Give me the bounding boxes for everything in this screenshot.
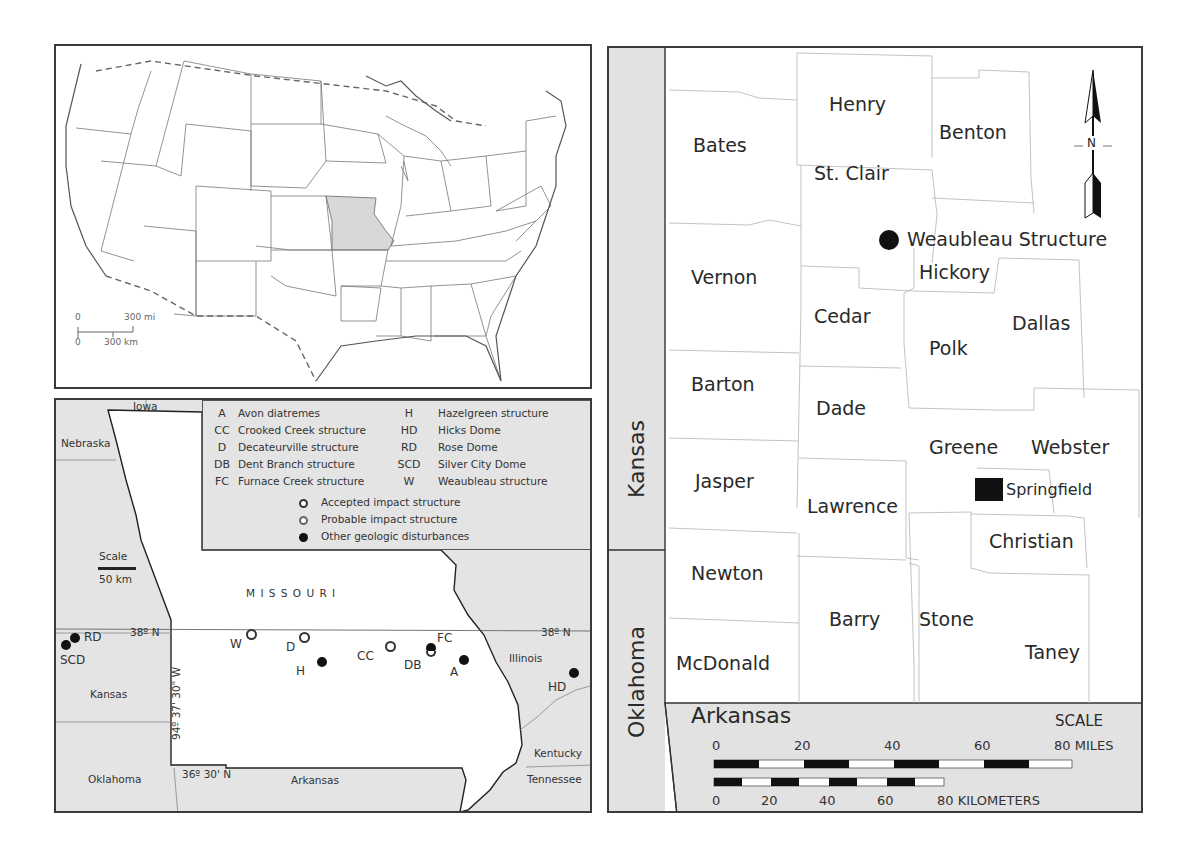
county-jasper: Jasper bbox=[695, 470, 754, 492]
site-marker-h[interactable] bbox=[317, 657, 327, 667]
county-dade: Dade bbox=[816, 397, 866, 419]
legend-symbol-label: Accepted impact structure bbox=[321, 496, 460, 508]
scale-tick-km: 20 bbox=[761, 793, 778, 808]
scale-tick-miles: 40 bbox=[884, 738, 901, 753]
county-christian: Christian bbox=[989, 530, 1074, 552]
legend-code: DB bbox=[207, 458, 237, 471]
scale-tick-km: 60 bbox=[877, 793, 894, 808]
site-label: RD bbox=[84, 630, 102, 644]
site-label: FC bbox=[437, 631, 452, 645]
label-illinois: Illinois bbox=[509, 652, 542, 664]
scale-tick-miles: 60 bbox=[974, 738, 991, 753]
label-kentucky: Kentucky bbox=[534, 747, 582, 759]
label-oklahoma-strip: Oklahoma bbox=[624, 626, 649, 738]
label-missouri: M I S S O U R I bbox=[246, 587, 336, 599]
legend-name: Crooked Creek structure bbox=[238, 424, 366, 436]
county-henry: Henry bbox=[829, 93, 886, 115]
site-marker-a[interactable] bbox=[459, 655, 469, 665]
legend-name: Weaubleau structure bbox=[438, 475, 547, 487]
site-marker-hd[interactable] bbox=[569, 668, 579, 678]
site-label: CC bbox=[357, 649, 374, 663]
county-cedar: Cedar bbox=[814, 305, 870, 327]
county-bates: Bates bbox=[693, 134, 747, 156]
scale-tick-km: 80 KILOMETERS bbox=[937, 793, 1040, 808]
us-overview-map: 0 300 mi 0 300 km bbox=[54, 44, 592, 389]
us-scale-zero-top: 0 bbox=[75, 312, 81, 322]
county-greene: Greene bbox=[929, 436, 998, 458]
north-arrow-label: N bbox=[1087, 136, 1096, 150]
probable-impact-icon bbox=[299, 516, 308, 525]
legend-box: A Avon diatremes CC Crooked Creek struct… bbox=[202, 400, 592, 550]
site-label: SCD bbox=[60, 653, 85, 667]
label-longitude: 94º 37' 30" W bbox=[170, 667, 182, 740]
county-newton: Newton bbox=[691, 562, 764, 584]
missouri-highlight bbox=[326, 196, 394, 250]
springfield-square bbox=[975, 478, 1003, 501]
us-scale-km: 300 km bbox=[104, 337, 138, 347]
county-st-clair: St. Clair bbox=[814, 162, 889, 184]
site-label: A bbox=[450, 665, 458, 679]
county-webster: Webster bbox=[1031, 436, 1109, 458]
label-nebraska: Nebraska bbox=[61, 437, 111, 449]
legend-code: H bbox=[394, 407, 424, 420]
legend-code: D bbox=[207, 441, 237, 454]
site-label: D bbox=[286, 640, 295, 654]
label-iowa: Iowa bbox=[133, 400, 158, 412]
site-label: W bbox=[230, 637, 242, 651]
weaubleau-structure-label: Weaubleau Structure bbox=[907, 228, 1107, 250]
legend-code: A bbox=[207, 407, 237, 420]
site-marker-w[interactable] bbox=[246, 629, 257, 640]
legend-name: Hicks Dome bbox=[438, 424, 501, 436]
legend-code: W bbox=[394, 475, 424, 488]
legend-code: CC bbox=[207, 424, 237, 437]
missouri-structures-map: Iowa Nebraska Kansas Oklahoma Arkansas I… bbox=[54, 398, 592, 813]
site-label: DB bbox=[404, 658, 421, 672]
legend-name: Decateurville structure bbox=[238, 441, 359, 453]
county-mcdonald: McDonald bbox=[676, 652, 770, 674]
county-barry: Barry bbox=[829, 608, 880, 630]
legend-name: Hazelgreen structure bbox=[438, 407, 549, 419]
legend-code: SCD bbox=[394, 458, 424, 471]
label-38n-west: 38º N bbox=[130, 626, 160, 638]
county-map: Kansas Oklahoma Arkansas N Henry Bates B… bbox=[607, 46, 1143, 813]
legend-name: Silver City Dome bbox=[438, 458, 526, 470]
springfield-label: Springfield bbox=[1006, 480, 1092, 499]
legend-name: Furnace Creek structure bbox=[238, 475, 364, 487]
label-tennessee: Tennessee bbox=[527, 773, 582, 785]
scale-tick-miles: 80 MILES bbox=[1054, 738, 1113, 753]
us-scale-zero-bottom: 0 bbox=[75, 337, 81, 347]
legend-symbol-label: Probable impact structure bbox=[321, 513, 457, 525]
label-kansas-strip: Kansas bbox=[624, 420, 649, 498]
legend-name: Rose Dome bbox=[438, 441, 498, 453]
scale-tick-miles: 20 bbox=[794, 738, 811, 753]
county-lawrence: Lawrence bbox=[807, 495, 898, 517]
label-38n-east: 38º N bbox=[541, 626, 571, 638]
label-36-30n: 36º 30' N bbox=[182, 768, 231, 780]
county-benton: Benton bbox=[939, 121, 1007, 143]
accepted-impact-icon bbox=[299, 499, 308, 508]
legend-name: Dent Branch structure bbox=[238, 458, 355, 470]
us-scale-miles: 300 mi bbox=[124, 312, 155, 322]
site-marker-d[interactable] bbox=[299, 632, 310, 643]
scale-tick-km: 40 bbox=[819, 793, 836, 808]
scale-tick-km: 0 bbox=[712, 793, 720, 808]
site-label: HD bbox=[548, 680, 566, 694]
label-arkansas-band: Arkansas bbox=[691, 703, 791, 728]
label-oklahoma: Oklahoma bbox=[88, 773, 141, 785]
label-arkansas: Arkansas bbox=[291, 774, 339, 786]
legend-name: Avon diatremes bbox=[238, 407, 320, 419]
site-label: H bbox=[296, 664, 305, 678]
mo-scale-label: 50 km bbox=[99, 573, 132, 585]
county-barton: Barton bbox=[691, 373, 755, 395]
other-disturbance-icon bbox=[299, 533, 308, 542]
legend-code: FC bbox=[207, 475, 237, 488]
county-stone: Stone bbox=[919, 608, 974, 630]
county-taney: Taney bbox=[1025, 641, 1080, 663]
site-marker-cc[interactable] bbox=[385, 641, 396, 652]
site-marker-scd[interactable] bbox=[61, 640, 71, 650]
mo-scale-title: Scale bbox=[99, 550, 127, 562]
county-polk: Polk bbox=[929, 337, 968, 359]
legend-code: HD bbox=[394, 424, 424, 437]
site-marker-rd[interactable] bbox=[70, 633, 80, 643]
label-kansas: Kansas bbox=[90, 688, 127, 700]
